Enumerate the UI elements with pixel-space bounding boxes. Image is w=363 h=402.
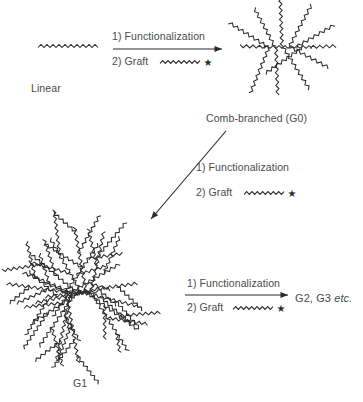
g1-secondary-arm: [54, 211, 76, 231]
graft-motif-1-chain: [160, 61, 200, 64]
g0-arm: [266, 46, 302, 75]
reaction-scheme-canvas: ★★★: [0, 0, 363, 402]
graft-motif-1: ★: [160, 57, 213, 68]
g1-primary-arm: [90, 232, 105, 293]
g1-secondary-arm: [115, 333, 121, 352]
graft-motif-2-chain: [244, 192, 284, 195]
g0-arm: [240, 45, 266, 49]
g1-secondary-arm: [116, 287, 141, 311]
linear-chain: [38, 45, 98, 48]
star-icon: ★: [288, 188, 297, 199]
g0-arm: [249, 46, 269, 92]
label-higher-generations: G2, G3 etc.: [295, 292, 352, 304]
g0-arm: [310, 45, 336, 49]
arrow-g0-to-g1-shaft: [151, 131, 226, 219]
g0-backbone: [264, 46, 312, 49]
structure-g1: [2, 210, 160, 384]
g1-primary-arm: [90, 293, 130, 351]
arrow-g1-to-higher-head: [281, 292, 289, 298]
arrow-linear-to-g0: [113, 46, 222, 52]
g0-arm: [275, 47, 280, 95]
arrow-g0-to-g1: [151, 131, 226, 219]
graft-motif-3-chain: [233, 307, 273, 310]
arrow2-step1-label: 1) Functionalization: [196, 161, 289, 173]
arrow3-step1-label: 1) Functionalization: [187, 277, 280, 289]
label-g1: G1: [73, 377, 87, 389]
products-etc: etc.: [334, 292, 352, 304]
label-linear: Linear: [31, 82, 61, 94]
g0-arm: [279, 0, 284, 47]
g0-arm: [228, 23, 269, 47]
g0-arm: [254, 7, 276, 46]
arrow1-step2-label: 2) Graft: [112, 55, 148, 67]
g1-secondary-arm: [100, 223, 127, 256]
graft-motif-2: ★: [244, 188, 297, 199]
structure-linear: [38, 45, 98, 48]
arrow2-step2-label: 2) Graft: [196, 186, 232, 198]
label-comb-branched-g0: Comb-branched (G0): [206, 112, 307, 124]
products-text: G2, G3: [295, 292, 334, 304]
arrow3-step2-label: 2) Graft: [187, 301, 223, 313]
star-icon: ★: [204, 57, 213, 68]
g1-secondary-arm: [17, 288, 47, 304]
g0-arm: [297, 25, 335, 48]
g0-arm: [289, 47, 328, 69]
structure-comb-branched-g0: [228, 0, 336, 95]
g1-secondary-arm: [119, 311, 160, 317]
arrow1-step1-label: 1) Functionalization: [112, 30, 205, 42]
graft-motif-3: ★: [233, 303, 286, 314]
arrow-g1-to-higher: [185, 292, 288, 298]
star-icon: ★: [277, 303, 286, 314]
arrow-linear-to-g0-head: [215, 46, 223, 52]
